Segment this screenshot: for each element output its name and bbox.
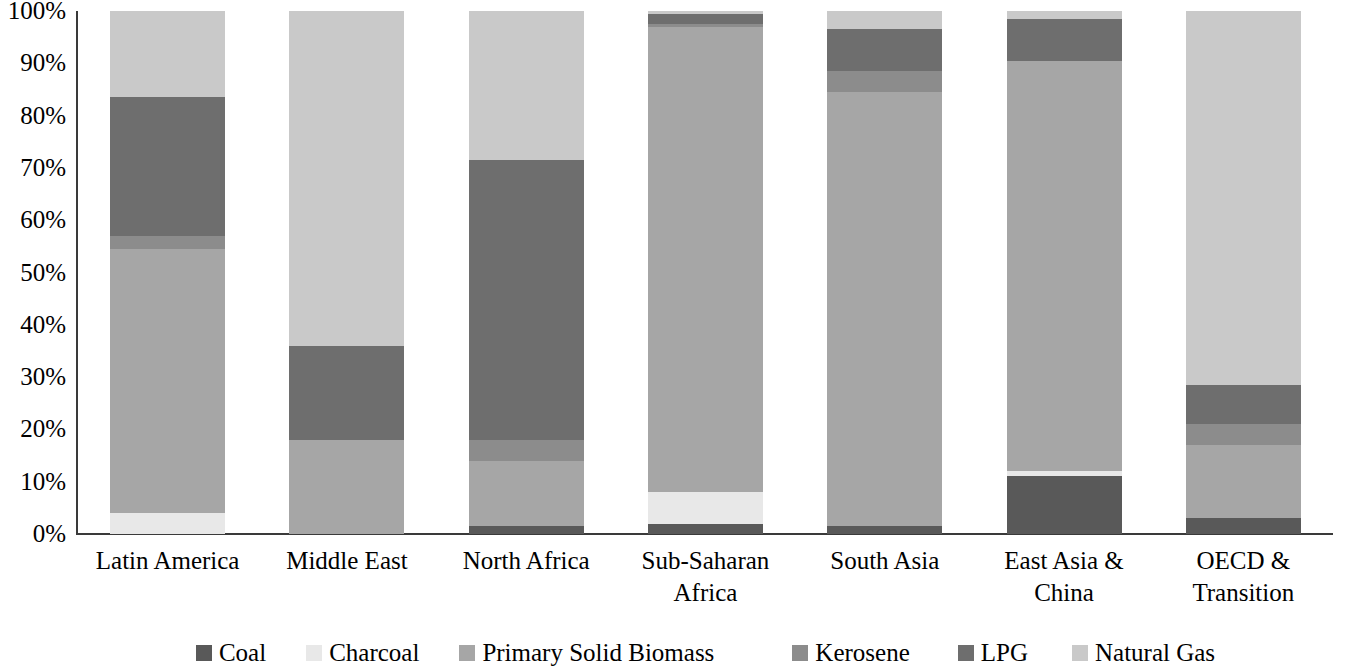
- bar-segment[interactable]: [469, 461, 584, 526]
- bar-segment[interactable]: [110, 97, 225, 236]
- bar-segment[interactable]: [1186, 11, 1301, 385]
- bar-segment[interactable]: [1186, 445, 1301, 518]
- bar-segment[interactable]: [827, 29, 942, 71]
- y-axis-tick-label: 50%: [20, 260, 66, 285]
- bar-segment[interactable]: [1007, 11, 1122, 19]
- y-axis-tick-label: 100%: [8, 0, 66, 23]
- bar-slot: [437, 11, 616, 534]
- y-axis-tick-label: 90%: [20, 50, 66, 75]
- legend-item[interactable]: Kerosene: [792, 640, 909, 666]
- bar-segment[interactable]: [1007, 476, 1122, 534]
- y-axis-tick-label: 30%: [20, 364, 66, 389]
- bar-segment[interactable]: [289, 11, 404, 346]
- bar-segment[interactable]: [469, 11, 584, 160]
- legend-label: Coal: [219, 640, 266, 666]
- bar-segment[interactable]: [648, 524, 763, 534]
- bar-segment[interactable]: [827, 92, 942, 526]
- stacked-bar[interactable]: [289, 11, 404, 534]
- y-axis-tick-label: 80%: [20, 103, 66, 128]
- bar-segment[interactable]: [110, 11, 225, 97]
- bar-segment[interactable]: [648, 27, 763, 492]
- y-axis-tick-label: 40%: [20, 312, 66, 337]
- bar-segment[interactable]: [469, 526, 584, 534]
- x-axis-category-label: Latin America: [78, 545, 257, 620]
- stacked-bar[interactable]: [469, 11, 584, 534]
- bar-segment[interactable]: [648, 492, 763, 523]
- x-axis-category-label: South Asia: [795, 545, 974, 620]
- x-axis: Latin AmericaMiddle EastNorth AfricaSub-…: [78, 545, 1333, 620]
- x-axis-category-label: Sub-Saharan Africa: [616, 545, 795, 620]
- x-axis-category-label: East Asia & China: [974, 545, 1153, 620]
- bar-slot: [1154, 11, 1333, 534]
- stacked-bar[interactable]: [1186, 11, 1301, 534]
- x-axis-category-label: North Africa: [437, 545, 616, 620]
- bar-segment[interactable]: [827, 71, 942, 92]
- legend-swatch-icon: [1072, 645, 1088, 661]
- stacked-bar-chart: 100%90%80%70%60%50%40%30%20%10%0% Latin …: [0, 0, 1345, 666]
- bar-segment[interactable]: [1007, 19, 1122, 61]
- legend-swatch-icon: [459, 645, 475, 661]
- chart-legend: CoalCharcoalPrimary Solid BiomassKerosen…: [78, 640, 1333, 666]
- bar-segment[interactable]: [1186, 518, 1301, 534]
- legend-label: Charcoal: [329, 640, 419, 666]
- bar-segment[interactable]: [110, 236, 225, 249]
- bar-segment[interactable]: [827, 526, 942, 534]
- y-axis-tick-label: 60%: [20, 207, 66, 232]
- legend-item[interactable]: Coal: [196, 640, 266, 666]
- bar-segment[interactable]: [469, 160, 584, 440]
- bar-segment[interactable]: [648, 14, 763, 24]
- bar-segment[interactable]: [1186, 424, 1301, 445]
- bar-slot: [78, 11, 257, 534]
- stacked-bar[interactable]: [648, 11, 763, 534]
- legend-swatch-icon: [792, 645, 808, 661]
- bar-slot: [974, 11, 1153, 534]
- x-axis-category-label: Middle East: [257, 545, 436, 620]
- x-axis-category-label: OECD & Transition: [1154, 545, 1333, 620]
- bar-segment[interactable]: [289, 346, 404, 440]
- stacked-bar[interactable]: [110, 11, 225, 534]
- legend-item[interactable]: Primary Solid Biomass: [459, 640, 714, 666]
- legend-label: Primary Solid Biomass: [482, 640, 714, 666]
- bar-segment[interactable]: [289, 440, 404, 534]
- legend-label: LPG: [981, 640, 1028, 666]
- bar-segment[interactable]: [1007, 61, 1122, 472]
- legend-label: Natural Gas: [1095, 640, 1215, 666]
- bar-segment[interactable]: [110, 513, 225, 534]
- y-axis-tick-label: 0%: [33, 521, 66, 546]
- stacked-bar[interactable]: [1007, 11, 1122, 534]
- y-axis-tick-label: 20%: [20, 416, 66, 441]
- legend-label: Kerosene: [815, 640, 909, 666]
- y-axis-tick-label: 70%: [20, 155, 66, 180]
- plot-area: [78, 11, 1333, 534]
- y-axis-tick-label: 10%: [20, 469, 66, 494]
- legend-item[interactable]: Charcoal: [306, 640, 419, 666]
- bar-segment[interactable]: [827, 11, 942, 29]
- legend-item[interactable]: LPG: [958, 640, 1028, 666]
- legend-swatch-icon: [196, 645, 212, 661]
- legend-swatch-icon: [306, 645, 322, 661]
- legend-swatch-icon: [958, 645, 974, 661]
- stacked-bar[interactable]: [827, 11, 942, 534]
- bar-slot: [257, 11, 436, 534]
- bar-slot: [795, 11, 974, 534]
- bar-segment[interactable]: [110, 249, 225, 513]
- bar-slot: [616, 11, 795, 534]
- bar-segment[interactable]: [469, 440, 584, 461]
- bar-segment[interactable]: [1186, 385, 1301, 424]
- legend-item[interactable]: Natural Gas: [1072, 640, 1215, 666]
- y-axis: 100%90%80%70%60%50%40%30%20%10%0%: [0, 0, 72, 545]
